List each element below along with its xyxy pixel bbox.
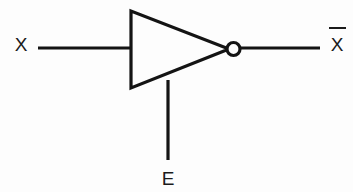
inverter-triangle: [131, 11, 229, 88]
output-label-xbar: X: [331, 34, 344, 55]
inverter-with-enable-diagram: X X E: [0, 0, 353, 192]
schematic-canvas: X X E: [0, 0, 353, 192]
input-label-x: X: [15, 34, 28, 55]
enable-label-e: E: [162, 168, 175, 189]
inversion-bubble-icon: [227, 43, 240, 56]
